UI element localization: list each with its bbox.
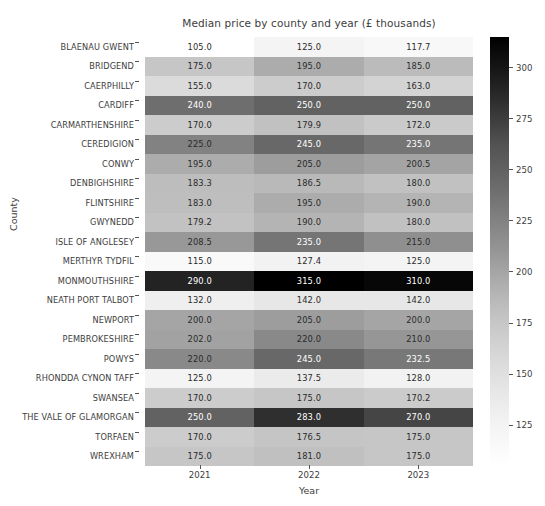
heatmap-cell-value: 170.0 — [188, 121, 212, 129]
y-axis-tick-labels: BLAENAU GWENTBRIDGENDCAERPHILLYCARDIFFCA… — [0, 37, 137, 466]
heatmap-cell-value: 220.0 — [297, 335, 321, 343]
y-axis-tick: TORFAEN — [0, 427, 137, 447]
heatmap-cell-value: 245.0 — [297, 355, 321, 363]
heatmap-cell-value: 270.0 — [406, 413, 430, 421]
heatmap-cell: 235.0 — [364, 135, 473, 155]
y-axis-tick-label: BLAENAU GWENT — [60, 42, 134, 52]
heatmap-cell-value: 215.0 — [406, 238, 430, 246]
heatmap-cell-value: 137.5 — [297, 374, 321, 382]
heatmap-cell: 202.0 — [145, 330, 254, 350]
y-axis-tick-mark — [135, 354, 139, 355]
colorbar-tick-mark — [509, 169, 513, 170]
heatmap-cell: 185.0 — [364, 57, 473, 77]
x-axis-tick-labels: 202120222023 — [145, 470, 473, 480]
y-axis-tick-mark — [135, 276, 139, 277]
heatmap-cell: 315.0 — [254, 271, 363, 291]
heatmap-cell: 181.0 — [254, 447, 363, 467]
heatmap-cell: 283.0 — [254, 408, 363, 428]
y-axis-tick: PEMBROKESHIRE — [0, 330, 137, 350]
heatmap-cell: 200.5 — [364, 154, 473, 174]
heatmap-cell-value: 235.0 — [406, 140, 430, 148]
heatmap-cell-value: 155.0 — [188, 82, 212, 90]
y-axis-tick: DENBIGHSHIRE — [0, 174, 137, 194]
heatmap-cell: 170.0 — [145, 388, 254, 408]
heatmap-cell: 208.5 — [145, 232, 254, 252]
heatmap-cell: 163.0 — [364, 76, 473, 96]
heatmap-cell: 125.0 — [254, 37, 363, 57]
heatmap-cell: 186.5 — [254, 174, 363, 194]
y-axis-tick-label: ISLE OF ANGLESEY — [56, 237, 134, 247]
heatmap-cell-value: 200.0 — [188, 316, 212, 324]
y-axis-tick-label: WREXHAM — [90, 451, 134, 461]
colorbar-tick-label: 225 — [516, 216, 532, 226]
heatmap-cell: 225.0 — [145, 135, 254, 155]
heatmap-cell: 183.3 — [145, 174, 254, 194]
page-title: Median price by county and year (£ thous… — [145, 17, 473, 29]
colorbar-tick-mark — [509, 67, 513, 68]
y-axis-tick-label: CONWY — [102, 159, 134, 169]
heatmap-cell: 270.0 — [364, 408, 473, 428]
heatmap-cell: 132.0 — [145, 291, 254, 311]
y-axis-tick-label: CEREDIGION — [81, 139, 134, 149]
colorbar-tick-mark — [509, 323, 513, 324]
x-axis-tick-label: 2023 — [407, 470, 429, 480]
heatmap-cell: 195.0 — [254, 57, 363, 77]
y-axis-tick-label: CAERPHILLY — [84, 81, 134, 91]
y-axis-tick-label: BRIDGEND — [89, 61, 134, 71]
y-axis-tick: CONWY — [0, 154, 137, 174]
y-axis-tick-label: PEMBROKESHIRE — [63, 334, 134, 344]
colorbar-tick-label: 300 — [516, 63, 532, 73]
y-axis-tick: FLINTSHIRE — [0, 193, 137, 213]
heatmap-cell-value: 180.0 — [406, 218, 430, 226]
y-axis-tick: BRIDGEND — [0, 57, 137, 77]
heatmap-cell-value: 315.0 — [297, 277, 321, 285]
heatmap-cell: 200.0 — [364, 310, 473, 330]
colorbar-tick-label: 175 — [516, 318, 532, 328]
y-axis-tick: BLAENAU GWENT — [0, 37, 137, 57]
y-axis-tick: CARMARTHENSHIRE — [0, 115, 137, 135]
heatmap-cell: 215.0 — [364, 232, 473, 252]
colorbar-tick-mark — [509, 220, 513, 221]
y-axis-tick-mark — [135, 451, 139, 452]
heatmap-cell: 290.0 — [145, 271, 254, 291]
heatmap-cell-value: 250.0 — [406, 101, 430, 109]
y-axis-tick-label: CARMARTHENSHIRE — [51, 120, 134, 130]
heatmap-cell-value: 232.5 — [406, 355, 430, 363]
heatmap-cell: 183.0 — [145, 193, 254, 213]
colorbar-tick-label: 275 — [516, 114, 532, 124]
y-axis-tick-label: RHONDDA CYNON TAFF — [36, 373, 134, 383]
y-axis-tick-mark — [135, 61, 139, 62]
heatmap-cell-value: 190.0 — [406, 199, 430, 207]
y-axis-tick-mark — [135, 393, 139, 394]
y-axis-tick: CARDIFF — [0, 96, 137, 116]
y-axis-tick-mark — [135, 237, 139, 238]
heatmap-cell: 235.0 — [254, 232, 363, 252]
y-axis-tick: CAERPHILLY — [0, 76, 137, 96]
heatmap-cell: 175.0 — [364, 427, 473, 447]
heatmap-cell-value: 175.0 — [188, 452, 212, 460]
heatmap-cell: 137.5 — [254, 369, 363, 389]
y-axis-tick: CEREDIGION — [0, 135, 137, 155]
y-axis-tick: MONMOUTHSHIRE — [0, 271, 137, 291]
y-axis-tick-mark — [135, 373, 139, 374]
colorbar-tick-label: 150 — [516, 369, 532, 379]
x-axis-tick-mark — [309, 465, 310, 469]
heatmap-cell-value: 225.0 — [188, 140, 212, 148]
heatmap-cell-value: 170.2 — [406, 394, 430, 402]
heatmap-cell-value: 290.0 — [188, 277, 212, 285]
y-axis-tick: THE VALE OF GLAMORGAN — [0, 408, 137, 428]
x-axis-tick-mark — [200, 465, 201, 469]
y-axis-tick-mark — [135, 81, 139, 82]
heatmap-cell-value: 195.0 — [188, 160, 212, 168]
heatmap-cell-value: 310.0 — [406, 277, 430, 285]
x-axis-tick-mark — [418, 465, 419, 469]
heatmap-cell-value: 180.0 — [406, 179, 430, 187]
y-axis-tick-label: THE VALE OF GLAMORGAN — [22, 412, 134, 422]
colorbar-tick-label: 125 — [516, 420, 532, 430]
y-axis-tick-mark — [135, 432, 139, 433]
heatmap-cell: 170.0 — [254, 76, 363, 96]
heatmap-cell-value: 125.0 — [406, 257, 430, 265]
y-axis-tick-label: POWYS — [104, 354, 134, 364]
y-axis-tick-mark — [135, 159, 139, 160]
heatmap-cell: 190.0 — [254, 213, 363, 233]
